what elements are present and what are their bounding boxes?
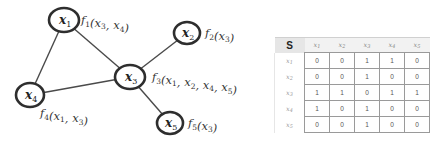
table-cell: 0 [380, 117, 405, 133]
node-x1: x1 [49, 8, 79, 32]
table-cell: 1 [355, 117, 380, 133]
table-cell: 0 [305, 69, 330, 85]
table-cell: 0 [380, 101, 405, 117]
table-row: x2 0 0 1 0 0 [275, 69, 430, 85]
table-cell: 0 [305, 53, 330, 69]
table-corner-label: S [275, 38, 305, 53]
row-header: x4 [275, 101, 305, 117]
table-cell: 1 [380, 53, 405, 69]
table-row: x1 0 0 1 1 0 [275, 53, 430, 69]
table-cell: 0 [355, 85, 380, 101]
table-cell: 0 [330, 69, 355, 85]
table-cell: 1 [355, 101, 380, 117]
table-cell: 1 [380, 85, 405, 101]
table-cell: 1 [405, 85, 430, 101]
factor-label-x1: f1(x3, x4) [80, 13, 129, 35]
factor-label-x2: f2(x3) [204, 26, 234, 45]
column-header: x5 [405, 38, 430, 53]
table-cell: 0 [405, 101, 430, 117]
column-header: x2 [330, 38, 355, 53]
factor-label-x5: f5(x3) [187, 116, 217, 135]
table-cell: 1 [305, 101, 330, 117]
row-header: x2 [275, 69, 305, 85]
table-cell: 1 [355, 53, 380, 69]
table-header-row: S x1 x2 x3 x4 x5 [275, 38, 430, 53]
node-x4: x4 [16, 83, 44, 107]
column-header: x3 [355, 38, 380, 53]
table-cell: 0 [330, 101, 355, 117]
table-row: x5 0 0 1 0 0 [275, 117, 430, 133]
table-cell: 1 [330, 85, 355, 101]
table-cell: 0 [405, 69, 430, 85]
node-x3: x3 [115, 65, 145, 89]
factor-graph: x1x2x3x4x5 f1(x3, x4)f2(x3)f3(x1, x2, x4… [0, 0, 260, 145]
row-header: x3 [275, 85, 305, 101]
table-cell: 0 [405, 117, 430, 133]
table-cell: 0 [405, 53, 430, 69]
table-cell: 1 [305, 85, 330, 101]
column-header: x1 [305, 38, 330, 53]
node-x2: x2 [174, 22, 200, 44]
table-cell: 1 [355, 69, 380, 85]
table-cell: 0 [380, 69, 405, 85]
factor-label-x4: f4(x1, x3) [39, 106, 88, 128]
table-cell: 0 [330, 53, 355, 69]
table-row: x3 1 1 0 1 1 [275, 85, 430, 101]
table-cell: 0 [330, 117, 355, 133]
adjacency-matrix-table: S x1 x2 x3 x4 x5 x1 0 0 1 1 0 x2 0 0 1 0… [274, 37, 430, 133]
table-row: x4 1 0 1 0 0 [275, 101, 430, 117]
row-header: x1 [275, 53, 305, 69]
row-header: x5 [275, 117, 305, 133]
node-x5: x5 [157, 112, 183, 134]
factor-label-x3: f3(x1, x2, x4, x5) [151, 70, 237, 97]
column-header: x4 [380, 38, 405, 53]
table-cell: 0 [305, 117, 330, 133]
